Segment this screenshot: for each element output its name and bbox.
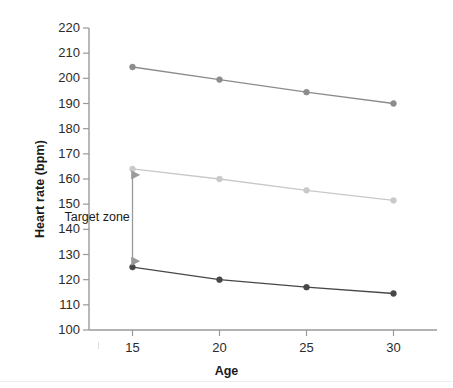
y-tick-label: 120	[36, 273, 80, 286]
y-tick-label: 180	[36, 122, 80, 135]
x-axis-ticks	[133, 330, 394, 336]
y-tick-label: 220	[36, 21, 80, 34]
data-series-layer	[130, 64, 397, 296]
series-line	[133, 67, 394, 103]
series-line	[133, 169, 394, 200]
y-tick-label: 160	[36, 172, 80, 185]
y-tick-label: 190	[36, 97, 80, 110]
data-series	[130, 264, 397, 296]
x-tick-label: 25	[287, 341, 327, 354]
data-point-marker	[391, 197, 397, 203]
y-axis-ticks	[83, 28, 89, 330]
data-point-marker	[217, 277, 223, 283]
data-point-marker	[130, 166, 136, 172]
data-point-marker	[130, 264, 136, 270]
x-tick-label: 30	[374, 341, 414, 354]
y-tick-label: 130	[36, 248, 80, 261]
y-tick-label: 150	[36, 197, 80, 210]
y-tick-label: 170	[36, 147, 80, 160]
data-point-marker	[217, 176, 223, 182]
data-point-marker	[304, 89, 310, 95]
data-series	[130, 166, 397, 203]
y-tick-label: 200	[36, 71, 80, 84]
data-point-marker	[304, 284, 310, 290]
stray-tick-mark	[98, 342, 99, 349]
data-point-marker	[391, 101, 397, 107]
y-tick-label: 110	[36, 298, 80, 311]
data-series	[130, 64, 397, 106]
data-point-marker	[130, 64, 136, 70]
bottom-divider	[0, 381, 453, 382]
data-point-marker	[304, 187, 310, 193]
data-point-marker	[217, 77, 223, 83]
x-tick-label: 20	[200, 341, 240, 354]
series-line	[133, 267, 394, 293]
x-tick-label: 15	[113, 341, 153, 354]
x-axis-title: Age	[0, 364, 453, 378]
target-zone-annotation-label: Target zone	[65, 210, 130, 224]
chart-figure: Heart rate (bpm) 22021020019018017016015…	[0, 0, 453, 388]
y-tick-label: 210	[36, 46, 80, 59]
data-point-marker	[391, 291, 397, 297]
y-tick-label: 100	[36, 323, 80, 336]
y-tick-label: 140	[36, 222, 80, 235]
